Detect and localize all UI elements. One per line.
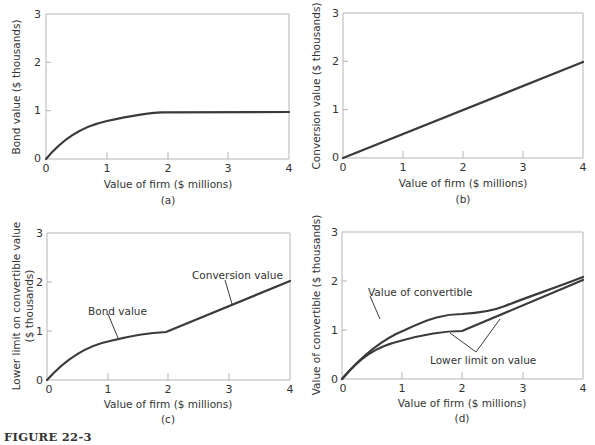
panel-d: 0 1 2 3 0 1 2 3 4 Value of firm ($ milli… <box>310 215 587 424</box>
x-tick-label: 4 <box>580 161 587 174</box>
y-tick-label: 3 <box>332 7 339 20</box>
y-tick-label: 0 <box>331 373 338 386</box>
y-tick-label: 1 <box>332 103 339 116</box>
y-tick-label: 2 <box>34 56 41 69</box>
y-tick-label: 2 <box>332 55 339 68</box>
x-tick-label: 0 <box>43 162 50 175</box>
x-tick-label: 3 <box>225 162 232 175</box>
x-tick-label: 3 <box>520 382 527 395</box>
plot-frame <box>47 233 290 380</box>
x-tick-label: 4 <box>286 162 293 175</box>
panel-label: (c) <box>161 413 175 425</box>
bond-value-curve <box>46 112 289 159</box>
lower-limit-leader-left <box>450 333 476 352</box>
conversion-value-leader <box>225 280 232 304</box>
x-tick-label: 0 <box>340 382 347 395</box>
y-axis-label: Lower limit on convertible value <box>10 222 22 391</box>
y-ticks <box>46 62 51 110</box>
figure-caption: FIGURE 22-3 <box>4 430 92 444</box>
figure-canvas: 0 1 2 3 0 1 2 3 4 Value of firm ($ milli… <box>0 0 595 445</box>
y-tick-label: 3 <box>34 8 41 21</box>
y-tick-label: 2 <box>331 275 338 288</box>
lower-limit-annotation: Lower limit on value <box>430 354 536 366</box>
bond-value-annotation: Bond value <box>88 305 147 317</box>
x-axis-label: Value of firm ($ millions) <box>104 398 233 410</box>
x-ticks <box>402 372 523 379</box>
y-tick-label: 1 <box>34 104 41 117</box>
x-tick-label: 4 <box>287 383 294 396</box>
x-axis-label: Value of firm ($ millions) <box>399 177 528 189</box>
x-tick-label: 2 <box>165 162 172 175</box>
x-tick-label: 3 <box>520 161 527 174</box>
y-axis-label: Value of convertible ($ thousands) <box>310 215 322 396</box>
value-of-convertible-leader <box>370 296 380 319</box>
y-tick-label: 0 <box>34 152 41 165</box>
y-tick-label: 2 <box>36 276 43 289</box>
y-ticks <box>47 282 52 331</box>
y-ticks <box>342 281 347 330</box>
panel-c: 0 1 2 3 0 1 2 3 4 Value of firm ($ milli… <box>10 222 294 425</box>
plot-frame <box>343 13 583 158</box>
x-tick-label: 0 <box>46 383 53 396</box>
x-tick-label: 2 <box>459 382 466 395</box>
y-tick-label: 1 <box>36 325 43 338</box>
y-axis-label: Conversion value ($ thousands) <box>310 3 322 170</box>
panel-label: (a) <box>161 194 176 206</box>
y-tick-label: 3 <box>331 226 338 239</box>
y-tick-label: 0 <box>332 151 339 164</box>
x-tick-label: 1 <box>399 382 406 395</box>
panel-label: (d) <box>455 412 470 424</box>
lower-limit-curve <box>47 281 290 380</box>
value-of-convertible-annotation: Value of convertible <box>368 286 473 298</box>
x-axis-label: Value of firm ($ millions) <box>104 178 233 190</box>
x-tick-label: 4 <box>580 382 587 395</box>
conversion-value-line <box>343 62 583 158</box>
x-tick-label: 1 <box>400 161 407 174</box>
x-tick-label: 2 <box>460 161 467 174</box>
x-axis-label: Value of firm ($ millions) <box>398 397 527 409</box>
y-ticks <box>343 61 348 109</box>
bond-value-leader <box>108 314 118 338</box>
panel-a: 0 1 2 3 0 1 2 3 4 Value of firm ($ milli… <box>10 8 293 206</box>
x-ticks <box>108 373 229 380</box>
x-tick-label: 3 <box>226 383 233 396</box>
y-tick-label: 3 <box>36 227 43 240</box>
x-tick-label: 1 <box>104 162 111 175</box>
y-tick-label: 0 <box>36 374 43 387</box>
y-tick-label: 1 <box>331 324 338 337</box>
panel-label: (b) <box>456 193 471 205</box>
x-tick-label: 2 <box>165 383 172 396</box>
plot-frame <box>46 14 289 159</box>
conversion-value-annotation: Conversion value <box>192 269 283 281</box>
x-ticks <box>403 151 523 158</box>
y-axis-label-line2: ($ thousands) <box>23 270 35 343</box>
x-ticks <box>107 152 228 159</box>
x-tick-label: 0 <box>340 161 347 174</box>
x-tick-label: 1 <box>105 383 112 396</box>
panel-b: 0 1 2 3 0 1 2 3 4 Value of firm ($ milli… <box>310 3 587 205</box>
y-axis-label: Bond value ($ thousands) <box>10 19 22 154</box>
